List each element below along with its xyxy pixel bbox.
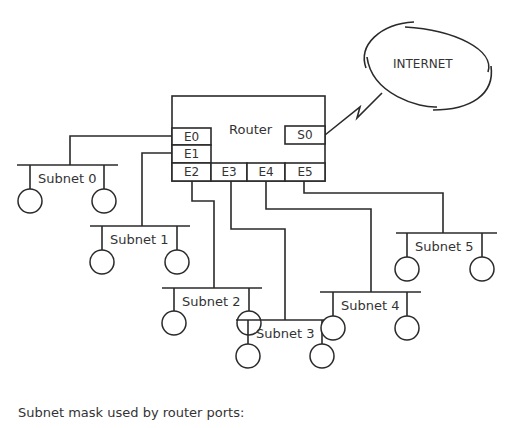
host-icon	[321, 316, 345, 340]
host-icon	[162, 311, 186, 335]
port-e1-label: E1	[172, 148, 211, 160]
host-icon	[395, 316, 419, 340]
host-icon	[90, 250, 114, 274]
subnet-4-label: Subnet 4	[341, 299, 399, 312]
host-icon	[165, 250, 189, 274]
link-e1	[142, 153, 172, 226]
port-e2-label: E2	[172, 166, 211, 178]
host-icon	[470, 257, 494, 281]
router-label: Router	[229, 123, 272, 136]
internet-label: INTERNET	[393, 58, 453, 70]
host-icon	[310, 344, 334, 368]
port-e4-label: E4	[247, 166, 285, 178]
subnet-0-label: Subnet 0	[38, 172, 96, 185]
serial-link	[325, 93, 382, 135]
subnet-2-label: Subnet 2	[182, 295, 240, 308]
port-e5-label: E5	[285, 166, 325, 178]
port-e0-label: E0	[172, 131, 211, 143]
link-e4	[266, 181, 371, 292]
host-icon	[92, 189, 116, 213]
link-e2	[192, 181, 214, 288]
link-e0	[70, 136, 172, 165]
subnet-1-label: Subnet 1	[110, 233, 168, 246]
caption-text: Subnet mask used by router ports:	[18, 405, 244, 420]
port-s0-label: S0	[285, 129, 325, 141]
host-icon	[395, 257, 419, 281]
subnet-5-label: Subnet 5	[415, 240, 473, 253]
port-e3-label: E3	[211, 166, 247, 178]
host-icon	[236, 344, 260, 368]
link-e5	[304, 181, 443, 233]
subnet-3-label: Subnet 3	[256, 327, 314, 340]
host-icon	[18, 189, 42, 213]
